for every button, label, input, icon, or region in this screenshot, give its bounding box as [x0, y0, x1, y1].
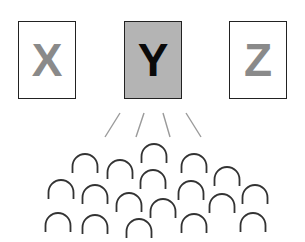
- ray-line: [136, 113, 144, 137]
- audience-member-arc: [117, 193, 142, 212]
- audience-member-arc: [179, 181, 204, 200]
- audience-member-arc: [215, 167, 240, 186]
- ray-line: [163, 113, 170, 137]
- audience-member-arc: [83, 215, 108, 234]
- broadcast-rays: [105, 113, 201, 137]
- audience-member-arc: [83, 185, 108, 204]
- diagram-graphics: [0, 0, 305, 242]
- audience-member-arc: [210, 194, 235, 213]
- audience-member-arc: [107, 160, 132, 179]
- audience-member-arc: [46, 213, 71, 232]
- audience-member-arc: [243, 185, 268, 204]
- audience-member-arc: [127, 219, 152, 238]
- audience: [46, 144, 268, 238]
- audience-member-arc: [141, 170, 166, 189]
- audience-member-arc: [182, 214, 207, 233]
- audience-member-arc: [73, 154, 98, 173]
- audience-member-arc: [151, 199, 176, 218]
- ray-line: [186, 113, 201, 137]
- audience-member-arc: [49, 180, 74, 199]
- audience-member-arc: [182, 154, 207, 173]
- ray-line: [105, 113, 120, 137]
- audience-member-arc: [142, 144, 167, 163]
- audience-member-arc: [241, 213, 266, 232]
